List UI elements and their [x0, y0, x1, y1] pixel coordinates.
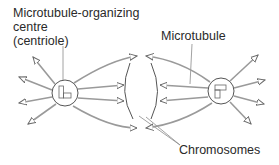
mtoc-label-line2: centre	[13, 20, 48, 34]
microtubule-label: Microtubule	[161, 29, 226, 43]
right-centriole	[208, 78, 234, 104]
left-centriole	[52, 80, 78, 106]
chromosome-right	[151, 63, 158, 119]
mtoc-label-line3: (centriole)	[13, 34, 69, 48]
microtubule-leader-line	[190, 44, 192, 84]
chromosomes-leader-line-1	[139, 116, 180, 145]
mtoc-label-line1: Microtubule-organizing	[13, 6, 139, 20]
chromosomes-label: Chromosomes	[179, 143, 260, 157]
right-microtubules	[146, 55, 265, 128]
chromosome-left	[125, 63, 133, 119]
